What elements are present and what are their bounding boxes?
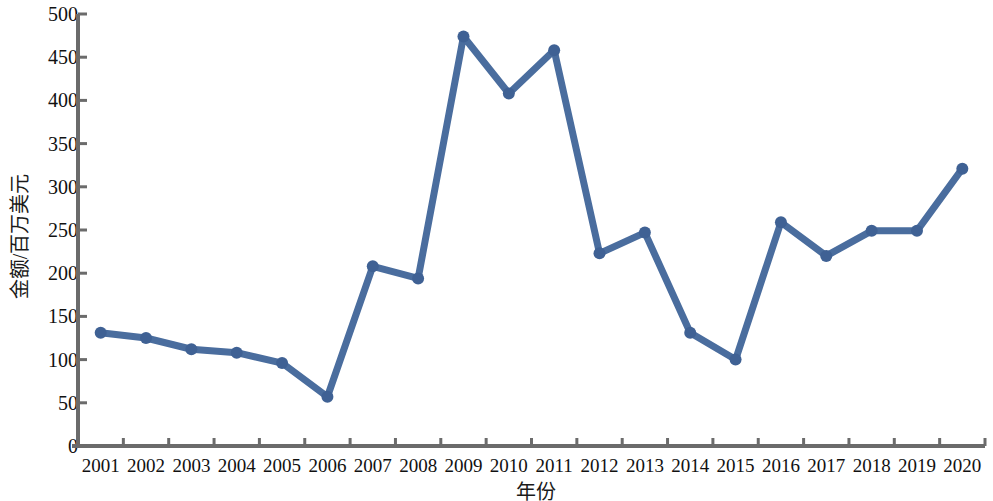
x-axis-tick-label: 2013 xyxy=(626,455,664,477)
x-axis-tick-label: 2003 xyxy=(172,455,210,477)
axis-tick-marks xyxy=(78,14,985,446)
x-axis-title-wrap: 年份 xyxy=(0,476,993,501)
x-axis-tick-label: 2016 xyxy=(762,455,800,477)
x-axis-tick-label: 2007 xyxy=(354,455,392,477)
x-axis-tick-label: 2020 xyxy=(943,455,981,477)
x-axis-tick-label: 2015 xyxy=(717,455,755,477)
x-axis-tick-label: 2017 xyxy=(807,455,845,477)
x-axis-tick-label: 2006 xyxy=(308,455,346,477)
x-axis-tick-label: 2014 xyxy=(671,455,709,477)
data-markers xyxy=(95,30,969,402)
x-axis-tick-label: 2008 xyxy=(399,455,437,477)
x-axis-tick-label: 2010 xyxy=(490,455,528,477)
data-line xyxy=(101,36,963,396)
line-chart: 金额/百万美元 050100150200250300350400450500 2… xyxy=(0,0,993,501)
x-axis-title: 年份 xyxy=(516,476,556,501)
x-axis-tick-label: 2005 xyxy=(263,455,301,477)
x-axis-tick-label: 2012 xyxy=(581,455,619,477)
x-axis-tick-label: 2004 xyxy=(218,455,256,477)
x-axis-tick-label: 2009 xyxy=(444,455,482,477)
x-axis-tick-label: 2011 xyxy=(536,455,573,477)
plot-area xyxy=(0,0,993,501)
x-axis-tick-label: 2019 xyxy=(898,455,936,477)
x-axis-tick-label: 2018 xyxy=(853,455,891,477)
x-axis-tick-label: 2001 xyxy=(82,455,120,477)
x-axis-tick-label: 2002 xyxy=(127,455,165,477)
